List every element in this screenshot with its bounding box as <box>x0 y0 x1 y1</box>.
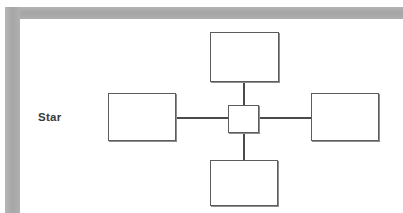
hub-to-left-link <box>175 117 229 119</box>
scanned-page: Star <box>0 0 403 213</box>
hub-to-right-link <box>258 117 312 119</box>
right-node <box>311 93 379 141</box>
page-frame-left-band <box>5 7 20 213</box>
diagram-caption-star: Star <box>38 111 62 123</box>
star-topology-diagram: Star <box>20 19 403 213</box>
page-frame-top-band <box>5 7 403 19</box>
top-node <box>210 32 279 82</box>
left-node <box>108 93 176 141</box>
central-hub-node <box>228 105 259 133</box>
hub-to-top-link <box>243 81 245 106</box>
hub-to-bottom-link <box>243 132 245 161</box>
bottom-node <box>210 160 278 206</box>
